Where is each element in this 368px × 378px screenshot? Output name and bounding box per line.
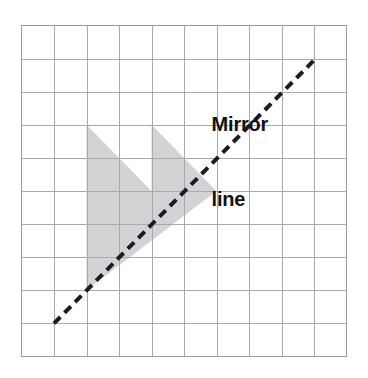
mirror-line-label-line2: line bbox=[212, 187, 269, 212]
figure-root: Mirror line bbox=[0, 0, 368, 378]
mirror-line-figure bbox=[0, 0, 368, 378]
mirror-line-label: Mirror line bbox=[212, 62, 269, 262]
mirror-line-label-line1: Mirror bbox=[212, 112, 269, 137]
